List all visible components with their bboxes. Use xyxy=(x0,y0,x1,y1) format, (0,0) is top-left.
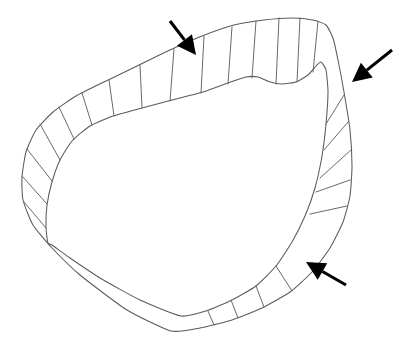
line-drawing-figure xyxy=(0,0,407,349)
figure-container xyxy=(0,0,407,349)
